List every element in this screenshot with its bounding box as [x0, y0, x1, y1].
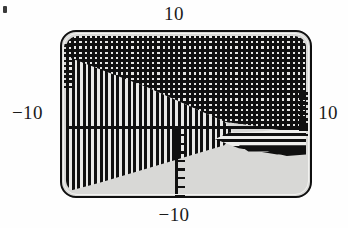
right-edge-tick	[299, 118, 308, 121]
right-edge-tick	[299, 123, 308, 126]
left-edge-tick	[64, 75, 73, 78]
right-edge-tick	[299, 113, 308, 116]
axis-label-left: −10	[12, 103, 43, 122]
right-edge-tick	[299, 108, 308, 111]
plot-frame	[60, 30, 312, 198]
y-tick	[178, 143, 185, 145]
y-tick	[178, 186, 185, 188]
y-tick	[178, 168, 185, 170]
left-edge-tick	[64, 60, 73, 63]
right-edge-tick	[299, 102, 308, 105]
left-edge-tick	[64, 86, 73, 89]
plot-area	[66, 36, 306, 192]
right-edge-tick	[299, 134, 308, 137]
right-edge-tick	[299, 97, 308, 100]
right-edge-tick	[299, 128, 308, 131]
right-edge-tick	[299, 92, 308, 95]
y-tick	[178, 134, 185, 136]
figure-page: 10 −10 −10 10	[0, 0, 348, 228]
y-tick	[178, 160, 185, 162]
left-edge-tick	[64, 44, 73, 47]
x-axis-line	[68, 126, 308, 129]
y-tick	[178, 177, 185, 179]
left-edge-tick	[64, 54, 73, 57]
left-edge-tick	[64, 49, 73, 52]
y-tick	[178, 151, 185, 153]
left-edge-tick	[64, 65, 73, 68]
axis-label-right: 10	[318, 103, 338, 122]
left-edge-tick	[64, 70, 73, 73]
left-edge-tick	[64, 80, 73, 83]
axis-label-top: 10	[0, 4, 348, 23]
axis-label-bottom: −10	[0, 205, 348, 224]
y-tick	[178, 194, 185, 196]
